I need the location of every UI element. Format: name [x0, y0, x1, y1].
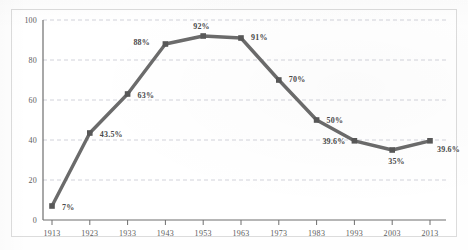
data-point-marker	[314, 117, 320, 123]
y-tick-label: 0	[33, 216, 37, 225]
x-tick-label: 1913	[43, 229, 60, 238]
line-chart: 020406080100 191319231933194319531963197…	[0, 0, 468, 250]
x-axis-tick-marks	[52, 220, 430, 225]
y-tick-label: 80	[29, 56, 37, 65]
data-point-label: 43.5%	[100, 130, 123, 139]
data-point-label: 39.6%	[322, 137, 345, 146]
data-point-labels: 7%43.5%63%88%92%91%70%50%39.6%35%39.6%	[62, 22, 460, 212]
data-point-label: 39.6%	[437, 145, 460, 154]
data-point-marker	[87, 130, 93, 136]
y-tick-label: 100	[24, 16, 37, 25]
data-point-marker	[49, 203, 55, 209]
data-point-marker	[352, 138, 358, 144]
x-tick-label: 1923	[81, 229, 98, 238]
chart-figure: 020406080100 191319231933194319531963197…	[0, 0, 468, 250]
data-point-marker	[427, 138, 433, 144]
data-point-marker	[125, 91, 131, 97]
x-tick-label: 1963	[232, 229, 249, 238]
x-tick-label: 2013	[421, 229, 438, 238]
x-tick-label: 1993	[346, 229, 363, 238]
data-point-label: 70%	[289, 75, 306, 84]
x-tick-label: 1943	[157, 229, 174, 238]
data-point-label: 91%	[251, 33, 268, 42]
data-point-label: 88%	[133, 38, 150, 47]
data-point-marker	[238, 35, 244, 41]
x-tick-label: 1933	[119, 229, 136, 238]
data-point-label: 7%	[62, 203, 74, 212]
data-point-marker	[389, 147, 395, 153]
x-tick-label: 1953	[195, 229, 212, 238]
x-tick-label: 1973	[270, 229, 287, 238]
y-tick-label: 40	[29, 136, 37, 145]
x-tick-label: 1983	[308, 229, 325, 238]
data-point-label: 35%	[388, 157, 405, 166]
x-tick-label: 2003	[384, 229, 401, 238]
data-point-marker	[200, 33, 206, 39]
x-axis-tick-labels: 1913192319331943195319631973198319932003…	[43, 229, 438, 238]
data-point-label: 50%	[327, 116, 344, 125]
y-axis-tick-labels: 020406080100	[24, 16, 37, 225]
data-point-label: 92%	[193, 22, 210, 31]
data-point-label: 63%	[138, 91, 155, 100]
data-point-marker	[163, 41, 169, 47]
y-tick-label: 60	[29, 96, 37, 105]
data-point-marker	[276, 77, 282, 83]
y-tick-label: 20	[29, 176, 37, 185]
